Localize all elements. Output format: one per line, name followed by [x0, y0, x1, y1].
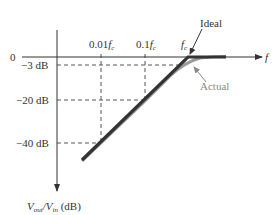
ideal-label: Ideal: [200, 18, 222, 29]
x-axis-label: f: [265, 52, 268, 63]
actual-label: Actual: [200, 81, 229, 92]
y-tick-minus40: −40 dB: [16, 138, 49, 149]
y-axis-unit: (dB): [61, 200, 81, 212]
y-axis-v: V: [27, 200, 34, 212]
y-tick-0: 0: [10, 52, 16, 63]
y-axis-label: Vout/Vin (dB): [27, 201, 81, 215]
ideal-pointer: [190, 29, 202, 54]
bode-plot: [0, 0, 276, 215]
x-tick-fc-sub: c: [184, 44, 187, 52]
actual-curve: [82, 57, 226, 162]
y-tick-minus20: −20 dB: [16, 95, 49, 106]
x-tick-001fc: 0.01fc: [89, 39, 114, 54]
y-tick-minus3: −3 dB: [21, 60, 48, 71]
guide-lines: [57, 54, 186, 143]
y-axis-in: in: [52, 206, 57, 214]
x-tick-fc: fc: [181, 39, 187, 54]
x-tick-001fc-sub: c: [111, 44, 114, 52]
x-tick-001fc-prefix: 0.01: [89, 38, 108, 50]
x-tick-01fc-sub: c: [153, 44, 156, 52]
x-tick-01fc: 0.1fc: [136, 39, 156, 54]
ideal-curve: [82, 57, 226, 160]
y-axis-out: out: [34, 206, 43, 214]
x-tick-01fc-prefix: 0.1: [136, 38, 150, 50]
